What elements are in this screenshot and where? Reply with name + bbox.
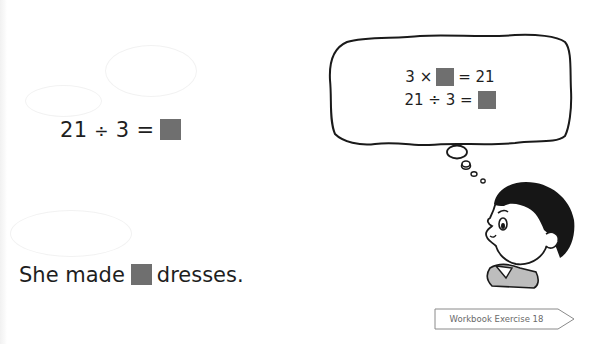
division-equation: 21 ÷ 3 =: [60, 115, 181, 146]
bubble-line-division: 21 ÷ 3 =: [325, 89, 575, 112]
page-edge: [0, 0, 7, 344]
answer-sentence: She madedresses.: [19, 260, 244, 290]
background-sketch: [10, 210, 132, 257]
sentence-prefix: She made: [19, 263, 125, 287]
bubble-line1-right: = 21: [458, 68, 494, 86]
answer-box[interactable]: [160, 119, 181, 140]
thinking-boy-icon: [440, 140, 590, 310]
bubble-line-multiplication: 3 ×= 21: [325, 66, 575, 89]
thought-bubble-text: 3 ×= 21 21 ÷ 3 =: [325, 66, 575, 112]
bubble-line1-left: 3 ×: [405, 68, 432, 86]
bubble-answer-box[interactable]: [436, 68, 454, 86]
background-sketch: [25, 85, 102, 117]
background-sketch: [105, 45, 197, 97]
divisor: 3: [116, 118, 130, 142]
bubble-answer-box[interactable]: [478, 91, 496, 109]
bubble-line2-left: 21 ÷ 3 =: [404, 91, 472, 109]
equals-sign: =: [137, 118, 155, 142]
answer-box[interactable]: [131, 264, 152, 285]
divide-operator: ÷: [94, 121, 109, 141]
workbook-exercise-link[interactable]: Workbook Exercise 18: [434, 310, 559, 328]
dividend: 21: [60, 118, 87, 142]
sentence-suffix: dresses.: [157, 263, 244, 287]
